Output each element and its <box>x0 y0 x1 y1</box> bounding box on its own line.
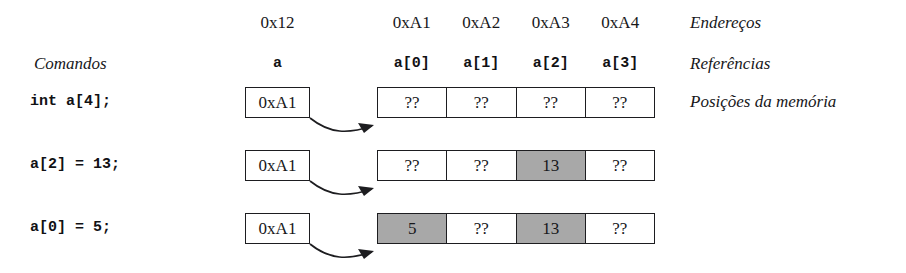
memory-cell: 5 <box>378 214 447 243</box>
memory-cell: ?? <box>447 214 516 243</box>
memory-array-diagram: 0x12 0xA1 0xA2 0xA3 0xA4 Comandos a a[0]… <box>0 0 906 273</box>
memory-cell: ?? <box>586 214 654 243</box>
memory-array-2: 5 ?? 13 ?? <box>377 213 655 244</box>
memory-cell: 13 <box>517 214 586 243</box>
